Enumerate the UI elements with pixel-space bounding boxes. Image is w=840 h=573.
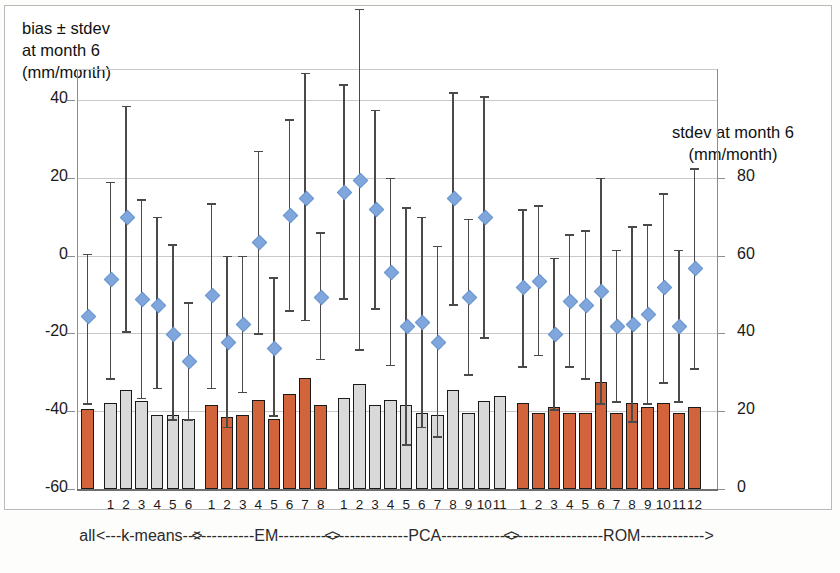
error-bar-cap-upper	[316, 232, 325, 234]
error-bar-cap-lower	[628, 421, 637, 423]
bias-marker	[688, 260, 704, 276]
y-axis-right-label: 0	[737, 478, 746, 496]
error-bar-cap-lower	[464, 374, 473, 376]
group-label-all: all	[79, 527, 95, 545]
bar	[104, 403, 117, 489]
error-bar-cap-upper	[254, 151, 263, 153]
baseline	[77, 489, 718, 491]
tick-left--60	[67, 489, 75, 490]
y-axis-left-label: 40	[50, 89, 68, 107]
bias-marker	[399, 319, 415, 335]
error-bar-cap-lower	[223, 427, 232, 429]
bar	[299, 378, 312, 489]
chart-figure: bias ± stdev at month 6 (mm/month) stdev…	[0, 0, 840, 573]
error-bar-cap-upper	[355, 9, 364, 11]
bias-marker	[431, 334, 447, 350]
error-bar-cap-lower	[612, 401, 621, 403]
bias-marker	[415, 315, 431, 331]
error-bar-cap-upper	[269, 277, 278, 279]
error-bar-cap-upper	[386, 178, 395, 180]
bias-marker	[119, 210, 135, 226]
error-bar-cap-upper	[207, 203, 216, 205]
bias-marker	[314, 290, 330, 306]
tick-right-0	[717, 489, 725, 490]
error-bar-cap-lower	[355, 349, 364, 351]
error-bar-cap-upper	[643, 224, 652, 226]
error-bar-cap-upper	[581, 230, 590, 232]
bias-marker	[547, 327, 563, 343]
error-bar-cap-upper	[402, 207, 411, 209]
bar	[135, 401, 148, 489]
error-bar-cap-upper	[122, 106, 131, 108]
error-bar-cap-lower	[83, 403, 92, 405]
bar	[494, 396, 507, 489]
error-bar-cap-lower	[386, 365, 395, 367]
error-bar-cap-upper	[417, 217, 426, 219]
bias-marker	[641, 307, 657, 323]
tick-left-0	[67, 256, 75, 257]
bias-marker	[337, 185, 353, 201]
y-axis-left-label: -60	[45, 478, 68, 496]
error-bar-cap-lower	[449, 304, 458, 306]
bar	[353, 384, 366, 489]
bias-marker	[220, 334, 236, 350]
error-bar-cap-upper	[83, 254, 92, 256]
error-bar-cap-lower	[550, 409, 559, 411]
tick-left--20	[67, 333, 75, 334]
bar	[236, 415, 249, 489]
error-bar-cap-upper	[223, 256, 232, 258]
x-tick-label: 6	[177, 497, 199, 512]
error-bar-cap-upper	[518, 209, 527, 211]
bar	[462, 413, 475, 489]
error-bar-cap-lower	[690, 368, 699, 370]
bar	[579, 413, 592, 489]
error-bar-cap-upper	[464, 219, 473, 221]
bar	[641, 407, 654, 489]
bar	[182, 419, 195, 489]
error-bar-cap-lower	[122, 331, 131, 333]
error-bar-cap-lower	[565, 366, 574, 368]
error-bar-cap-upper	[433, 246, 442, 248]
group-label-k-means: <---k-means-->	[96, 527, 203, 545]
bias-marker	[182, 354, 198, 370]
error-bar-cap-lower	[534, 355, 543, 357]
error-bar-cap-lower	[674, 401, 683, 403]
error-bar-cap-lower	[207, 388, 216, 390]
error-bar-cap-upper	[690, 168, 699, 170]
y-axis-left-label: 0	[59, 245, 68, 263]
bias-marker	[252, 235, 268, 251]
error-bar	[87, 254, 89, 404]
error-bar-cap-upper	[449, 92, 458, 94]
bar	[478, 401, 491, 489]
bar	[81, 409, 94, 489]
bias-marker	[446, 190, 462, 206]
bias-marker	[205, 288, 221, 304]
y-axis-right-label: 60	[737, 245, 755, 263]
error-bar-cap-upper	[339, 84, 348, 86]
error-bar-cap-lower	[269, 415, 278, 417]
group-label-PCA: <--------------PCA------------->	[324, 527, 519, 545]
bias-marker	[625, 317, 641, 333]
y-axis-right-label: 20	[737, 400, 755, 418]
x-tick-label: 8	[310, 497, 332, 512]
y-axis-left-label: 20	[50, 167, 68, 185]
bar	[314, 405, 327, 489]
gridline-left-20	[77, 178, 717, 179]
bias-marker	[81, 309, 97, 325]
bar	[205, 405, 218, 489]
y-axis-left-label: -20	[45, 322, 68, 340]
y-axis-right-label: 40	[737, 322, 755, 340]
error-bar-cap-upper	[168, 244, 177, 246]
bar	[532, 413, 545, 489]
error-bar-cap-upper	[596, 178, 605, 180]
bias-marker	[353, 173, 369, 189]
bias-marker	[267, 340, 283, 356]
error-bar-cap-lower	[433, 436, 442, 438]
bar	[447, 390, 460, 489]
y-axis-left-label: -40	[45, 400, 68, 418]
bias-marker	[563, 294, 579, 310]
bias-marker	[477, 210, 493, 226]
gridline-left-40	[77, 100, 717, 101]
bias-marker	[516, 280, 532, 296]
bar	[673, 413, 686, 489]
